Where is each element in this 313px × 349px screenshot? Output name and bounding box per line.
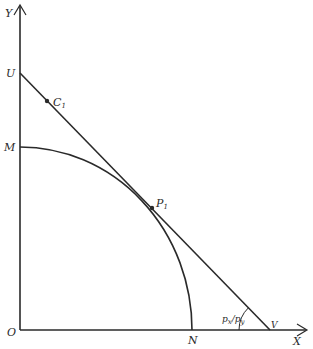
label-c1: C1 [53,96,66,110]
label-m: M [3,141,16,154]
label-p1: P1 [155,197,168,211]
point-p1 [150,206,154,210]
x-axis-label: X [292,335,302,348]
label-v: V [271,320,279,330]
price-line [20,73,270,330]
label-u: U [6,67,16,80]
origin-label: O [7,326,16,339]
y-axis-label: Y [5,7,14,20]
production-possibility-curve [20,147,192,330]
ppf-diagram: Y X O U M N V C1 P1 px/py [0,0,313,349]
point-c1 [45,99,49,103]
label-n: N [187,334,198,347]
